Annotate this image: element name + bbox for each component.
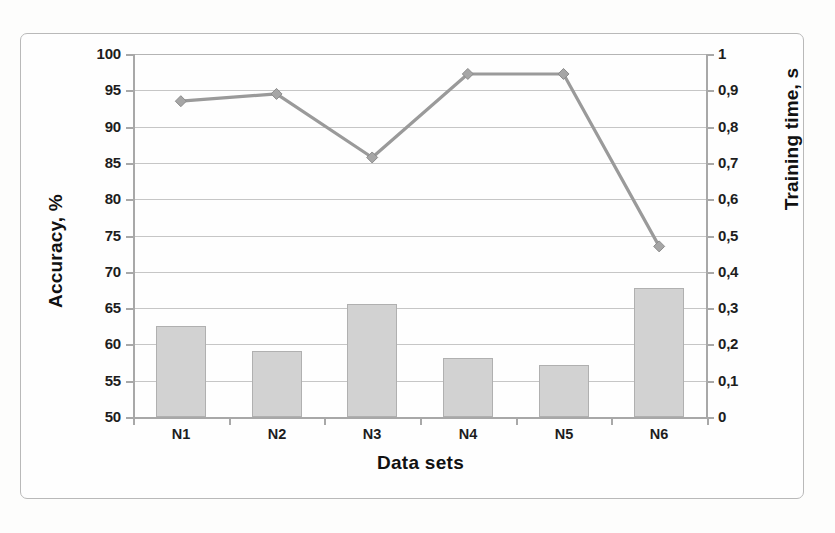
y-axis-left-tick-label: 55 [81,372,121,389]
y-axis-right-tick [707,90,714,92]
y-axis-right-title: Training time, s [781,39,803,239]
y-axis-right-tick-label: 1 [718,45,726,62]
y-axis-left-tick-labels: 50556065707580859095100 [76,0,121,533]
y-axis-right-tick [707,163,714,165]
y-axis-left-tick [126,272,133,274]
y-axis-left-tick-label: 90 [81,118,121,135]
y-axis-left-tick [126,127,133,129]
x-axis-tick [229,418,231,425]
y-axis-right-tick [707,236,714,238]
y-axis-left-tick [126,54,133,56]
y-axis-right-tick [707,127,714,129]
y-axis-left-tick-label: 85 [81,154,121,171]
x-axis-tick [707,418,709,425]
y-axis-left-tick [126,163,133,165]
y-axis-left-tick [126,199,133,201]
y-axis-right-tick [707,344,714,346]
y-axis-right-tick [707,54,714,56]
x-axis-tick [516,418,518,425]
x-axis-tick [133,418,135,425]
training-time-line [181,74,659,246]
y-axis-right-tick [707,381,714,383]
y-axis-left-tick [126,417,133,419]
y-axis-left-tick-label: 95 [81,81,121,98]
y-axis-left-tick [126,344,133,346]
y-axis-right-tick-label: 0,4 [718,263,738,280]
y-axis-right-tick-label: 0,7 [718,154,738,171]
y-axis-left-tick-label: 75 [81,227,121,244]
y-axis-left-tick-label: 80 [81,190,121,207]
data-point-marker-n1 [175,96,186,107]
y-axis-right-tick-label: 0,2 [718,335,738,352]
y-axis-left-tick-label: 65 [81,299,121,316]
scanned-page-background: 50556065707580859095100 00,10,20,30,40,5… [0,0,835,533]
y-axis-right-tick-label: 0,8 [718,118,738,135]
x-axis-category-label-n3: N3 [324,426,420,442]
y-axis-left-tick [126,381,133,383]
x-axis-title: Data sets [133,452,708,474]
y-axis-left-tick-label: 50 [81,408,121,425]
x-axis-tick [324,418,326,425]
x-axis-category-label-n1: N1 [133,426,229,442]
y-axis-right-tick [707,199,714,201]
y-axis-right-tick-label: 0,6 [718,190,738,207]
y-axis-right-tick-labels: 00,10,20,30,40,50,60,70,80,91 [718,0,763,533]
y-axis-right-tick-label: 0,5 [718,227,738,244]
y-axis-left-tick-label: 100 [81,45,121,62]
y-axis-left-tick-label: 60 [81,335,121,352]
y-axis-left-tick [126,90,133,92]
y-axis-right-tick-label: 0,9 [718,81,738,98]
y-axis-right-tick-label: 0,3 [718,299,738,316]
x-axis-category-label-n2: N2 [229,426,325,442]
x-axis-tick [420,418,422,425]
y-axis-left-title: Accuracy, % [45,171,67,331]
y-axis-left-tick-label: 70 [81,263,121,280]
x-axis-category-label-n4: N4 [420,426,516,442]
y-axis-right-tick-label: 0 [718,408,726,425]
x-axis-tick [611,418,613,425]
x-axis-category-label-n6: N6 [611,426,707,442]
y-axis-right-tick-label: 0,1 [718,372,738,389]
x-axis-category-label-n5: N5 [516,426,612,442]
y-axis-right-tick [707,308,714,310]
plot-area [133,54,707,417]
y-axis-right-tick [707,272,714,274]
line-series-training-time [133,54,707,417]
y-axis-left-tick [126,308,133,310]
y-axis-left-tick [126,236,133,238]
